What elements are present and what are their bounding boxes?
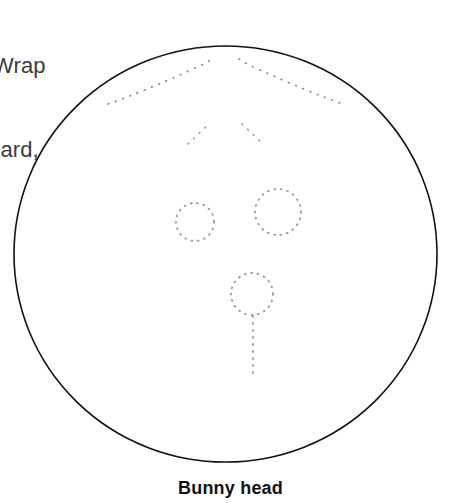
- right-eye-circle: [255, 189, 301, 235]
- left-brow-mark-line: [188, 124, 209, 144]
- head-outline: [14, 46, 437, 462]
- bunny-head-drawing: [0, 0, 461, 503]
- right-brow-mark-line: [242, 124, 263, 144]
- right-ear-fold-line: [239, 59, 343, 104]
- nose-circle: [231, 273, 273, 315]
- bunny-head-page: on. Wrap rdboard, Bunny head: [0, 0, 461, 503]
- left-eye-circle: [176, 203, 214, 241]
- left-ear-fold-line: [108, 59, 212, 104]
- figure-caption: Bunny head: [0, 478, 461, 499]
